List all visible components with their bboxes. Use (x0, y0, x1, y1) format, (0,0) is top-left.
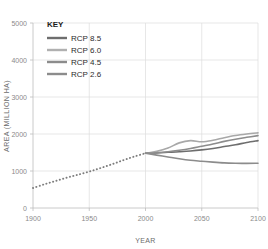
y-tick-label: 1000 (11, 168, 27, 175)
y-tick-label: 2000 (11, 131, 27, 138)
legend: KEY RCP 8.5RCP 6.0RCP 4.5RCP 2.6 (47, 20, 102, 79)
x-tick-labels-group: 19001950200020502100 (25, 215, 266, 222)
x-tick-label: 1900 (25, 215, 41, 222)
x-tick-label: 1950 (81, 215, 97, 222)
legend-item-label: RCP 4.5 (71, 58, 102, 67)
legend-title: KEY (47, 20, 64, 29)
chart-canvas: 010002000300040005000 190019502000205021… (0, 0, 268, 249)
x-tick-label: 2050 (194, 215, 210, 222)
y-tick-label: 3000 (11, 94, 27, 101)
rcp-cropland-area-chart: 010002000300040005000 190019502000205021… (0, 0, 268, 249)
legend-item-label: RCP 6.0 (71, 46, 102, 55)
y-tick-label: 4000 (11, 57, 27, 64)
legend-item-label: RCP 2.6 (71, 70, 102, 79)
x-axis-title: YEAR (135, 237, 156, 244)
y-tick-labels-group: 010002000300040005000 (11, 20, 27, 212)
legend-items-group: RCP 8.5RCP 6.0RCP 4.5RCP 2.6 (47, 34, 102, 79)
x-tick-label: 2000 (138, 215, 154, 222)
y-axis-title: AREA (MILLION HA) (3, 80, 11, 152)
y-tick-label: 0 (23, 205, 27, 212)
y-tick-label: 5000 (11, 20, 27, 27)
legend-item-label: RCP 8.5 (71, 34, 102, 43)
x-tick-label: 2100 (250, 215, 266, 222)
